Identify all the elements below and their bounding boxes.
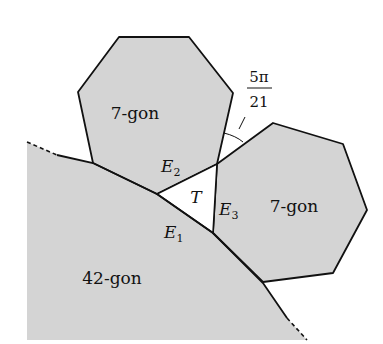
label-triangle-t: T <box>190 187 203 207</box>
tiling-diagram: 7-gon 7-gon 42-gon T E2 E3 E1 5π 21 <box>0 0 383 344</box>
label-42-gon: 42-gon <box>82 268 141 288</box>
angle-pointer <box>239 117 245 129</box>
angle-numerator: 5π <box>249 68 269 86</box>
angle-denominator: 21 <box>249 93 268 111</box>
label-right-7-gon: 7-gon <box>270 196 319 216</box>
label-top-7-gon: 7-gon <box>111 103 160 123</box>
angle-arc <box>224 133 243 142</box>
